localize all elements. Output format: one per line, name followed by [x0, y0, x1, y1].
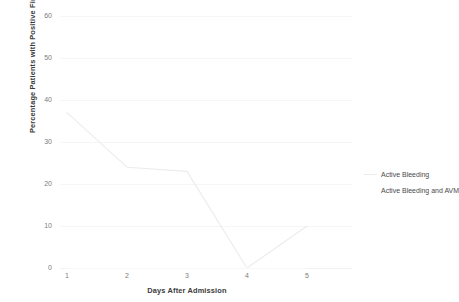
legend-item[interactable]: Active Bleeding and AVM	[364, 182, 459, 198]
chart-legend: Active BleedingActive Bleeding and AVM	[364, 166, 459, 198]
legend-label: Active Bleeding and AVM	[381, 186, 459, 195]
legend-swatch-icon	[364, 174, 377, 175]
x-tick-label: 2	[112, 272, 142, 279]
series-line-1	[67, 113, 307, 268]
legend-label: Active Bleeding	[381, 170, 429, 179]
x-tick-label: 3	[172, 272, 202, 279]
legend-swatch-icon	[364, 190, 377, 191]
x-tick-label: 5	[292, 272, 322, 279]
x-tick-label: 4	[232, 272, 262, 279]
legend-item[interactable]: Active Bleeding	[364, 166, 459, 182]
x-axis-title: Days After Admission	[60, 286, 314, 295]
x-tick-label: 1	[52, 272, 82, 279]
